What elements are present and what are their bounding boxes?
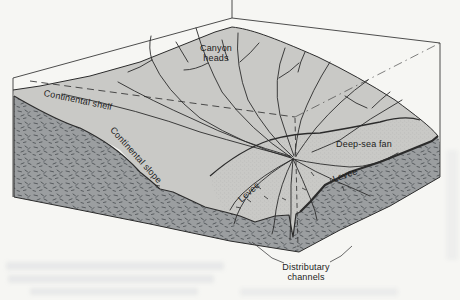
page-bleed-through [446,150,458,260]
page-bleed-through [240,288,398,296]
page-bleed-through [30,288,198,295]
label-distributary-line2: channels [282,272,329,282]
figure-canvas: Canyon heads Continental shelf Continent… [0,0,460,300]
label-canyon-heads-line1: Canyon [200,43,232,53]
label-distributary-line1: Distributary [282,262,329,272]
page-bleed-through [8,275,214,283]
label-canyon-heads: Canyon heads [200,43,232,63]
label-deep-sea-fan: Deep-sea fan [336,139,392,149]
page-bleed-through [6,262,224,270]
label-canyon-heads-line2: heads [200,53,232,63]
label-distributary-channels: Distributary channels [282,262,329,282]
